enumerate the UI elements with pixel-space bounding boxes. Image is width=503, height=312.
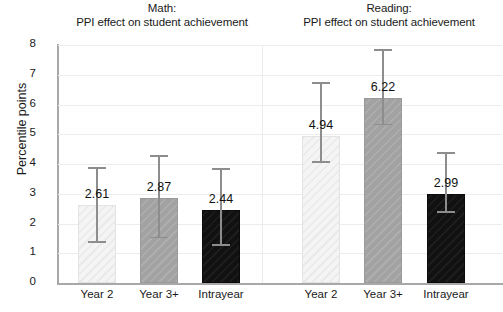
gridline xyxy=(58,134,502,135)
error-bar-math-year-2 xyxy=(88,167,106,243)
value-label-math-year-3-: 2.87 xyxy=(131,180,187,194)
error-bar-cap-bottom xyxy=(312,161,330,163)
error-bar-stem xyxy=(158,155,160,238)
y-tick-label: 3 xyxy=(14,186,36,198)
value-label-reading-year-3-: 6.22 xyxy=(355,80,411,94)
value-label-math-intrayear: 2.44 xyxy=(193,192,249,206)
error-bar-stem xyxy=(220,168,222,245)
value-label-math-year-2: 2.61 xyxy=(69,187,125,201)
y-tick-label: 8 xyxy=(14,37,36,49)
error-bar-cap-bottom xyxy=(150,237,168,239)
gridline xyxy=(58,45,502,46)
error-bar-cap-bottom xyxy=(212,244,230,246)
y-tick-label: 0 xyxy=(14,275,36,287)
panel-title-reading: Reading: PPI effect on student achieveme… xyxy=(278,1,500,29)
error-bar-stem xyxy=(96,167,98,243)
y-tick-label: 2 xyxy=(14,216,36,228)
gridline xyxy=(58,105,502,106)
error-bar-cap-bottom xyxy=(374,124,392,126)
value-label-reading-year-2: 4.94 xyxy=(293,118,349,132)
bar-reading-year-3-[interactable] xyxy=(364,98,402,283)
panel-title-math: Math: PPI effect on student achievement xyxy=(52,1,272,29)
x-axis-line xyxy=(57,283,503,285)
x-label-reading-intrayear: Intrayear xyxy=(409,288,483,300)
gridline xyxy=(58,164,502,165)
plot-area: 2.612.872.444.946.222.99 xyxy=(58,45,502,283)
value-label-reading-intrayear: 2.99 xyxy=(418,176,474,190)
x-label-math-intrayear: Intrayear xyxy=(184,288,258,300)
chart-container: Math: PPI effect on student achievement … xyxy=(0,0,503,312)
y-axis-ticks: 012345678 xyxy=(10,0,36,312)
error-bar-math-intrayear xyxy=(212,168,230,245)
y-tick-label: 5 xyxy=(14,126,36,138)
y-tick-label: 7 xyxy=(14,67,36,79)
error-bar-cap-bottom xyxy=(88,241,106,243)
panel-title-reading-line1: Reading: xyxy=(278,1,500,15)
panel-title-math-line1: Math: xyxy=(52,1,272,15)
error-bar-math-year-3- xyxy=(150,155,168,238)
y-tick-label: 1 xyxy=(14,245,36,257)
error-bar-cap-bottom xyxy=(437,211,455,213)
gridline xyxy=(58,75,502,76)
panel-title-math-line2: PPI effect on student achievement xyxy=(52,15,272,29)
y-tick-label: 6 xyxy=(14,97,36,109)
panel-title-reading-line2: PPI effect on student achievement xyxy=(278,15,500,29)
y-tick-label: 4 xyxy=(14,156,36,168)
